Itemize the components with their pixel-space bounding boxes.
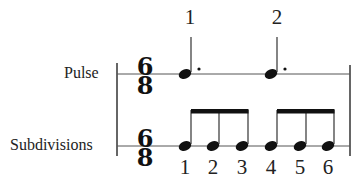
subdivision-count-3: 3: [232, 155, 252, 180]
subdivision-group-2: [263, 109, 335, 153]
pulse-time-signature-bottom: 8: [135, 76, 155, 95]
subdivisions-label: Subdivisions: [10, 136, 93, 154]
subdivision-count-1: 1: [175, 155, 195, 180]
subdivisions-time-signature-bottom: 8: [135, 148, 155, 167]
pulse-label: Pulse: [64, 64, 99, 82]
pulse-count-2: 2: [267, 5, 287, 30]
subdivision-count-6: 6: [318, 155, 338, 180]
pulse-count-1: 1: [180, 5, 200, 30]
subdivision-count-5: 5: [290, 155, 310, 180]
subdivision-group-1: [177, 109, 249, 153]
subdivision-count-4: 4: [261, 155, 281, 180]
subdivision-count-2: 2: [203, 155, 223, 180]
